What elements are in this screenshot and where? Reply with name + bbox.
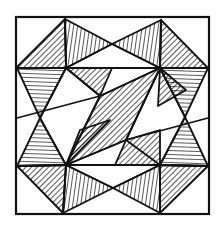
- hatched-shapes: [16, 19, 208, 213]
- hatched-region-tl-top: [65, 19, 112, 68]
- hatched-region-tr-upper: [160, 20, 208, 68]
- hatched-region-tl-inner: [66, 68, 112, 96]
- pattern-edge-line: [160, 20, 161, 68]
- hatched-region-tr-left: [112, 20, 161, 68]
- pattern-edge-line: [16, 165, 66, 166]
- pattern-edge-line: [17, 96, 100, 118]
- hatched-region-bl-lower: [17, 165, 66, 213]
- hatched-region-br-lower: [113, 165, 160, 213]
- hatched-region-bl-upper: [17, 118, 66, 166]
- pattern-edge-line: [65, 19, 66, 68]
- hatched-region-bl-right: [63, 165, 113, 213]
- pattern-edge-line: [160, 165, 208, 166]
- hatched-region-br-right: [160, 165, 208, 213]
- hatched-region-tl-lower: [17, 68, 66, 118]
- pattern-edge-line: [126, 118, 208, 140]
- hatched-geometric-pattern: [0, 0, 223, 230]
- hatched-region-tl-upper: [16, 19, 66, 68]
